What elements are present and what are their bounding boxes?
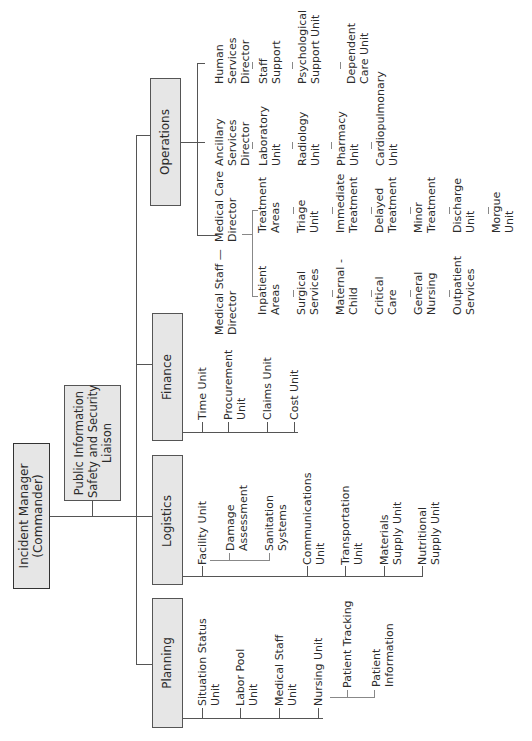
connector: [252, 62, 253, 69]
nursing-unit: Nursing Unit: [312, 638, 325, 706]
damage-assessment: Damage Assessment: [224, 485, 250, 551]
org-chart: Incident Manager (Commander) Public Info…: [0, 0, 532, 741]
cardiopulmonary-unit: Cardiopulmonary Unit: [374, 71, 400, 166]
connector: [345, 566, 346, 576]
general-nursing: General Nursing: [412, 272, 438, 315]
connector: [307, 566, 308, 576]
connector: [422, 566, 423, 576]
connector: [292, 62, 293, 69]
outpatient-services: Outpatient Services: [451, 256, 477, 315]
ancillary-services-director: Ancillary Services Director: [213, 119, 253, 167]
connector: [371, 290, 372, 297]
public-info-label: Public Information Safety and Security L…: [73, 388, 114, 498]
connector: [293, 207, 294, 214]
delayed-treatment: Delayed Treatment: [373, 177, 399, 233]
immediate-treatment: Immediate Treatment: [334, 174, 360, 233]
connector: [50, 516, 136, 517]
patient-information: Patient Information: [370, 623, 396, 687]
connector: [331, 142, 332, 149]
connector: [242, 234, 252, 235]
materials-supply-unit: Materials Supply Unit: [378, 502, 404, 565]
inpatient-areas: Inpatient Areas: [256, 266, 282, 315]
planning-label: Planning: [160, 602, 174, 724]
connector: [330, 697, 375, 698]
connector: [202, 708, 203, 718]
spine: [136, 135, 137, 665]
claims-unit: Claims Unit: [261, 357, 274, 420]
connector: [267, 422, 268, 432]
connector: [181, 142, 197, 143]
situation-status-unit: Situation Status Unit: [196, 618, 222, 706]
dependent-care-unit: Dependent Care Unit: [345, 23, 371, 84]
connector: [449, 290, 450, 297]
operations-label: Operations: [158, 81, 172, 203]
sanitation-systems: Sanitation Systems: [263, 495, 289, 551]
connector: [332, 207, 333, 214]
laboratory-unit: Laboratory Unit: [257, 106, 283, 166]
psychological-support-unit: Psychological Support Unit: [296, 10, 322, 84]
connector: [197, 63, 198, 235]
connector: [210, 560, 270, 561]
connector: [202, 422, 203, 432]
connector: [269, 553, 270, 560]
connector: [228, 422, 229, 432]
finance-label: Finance: [160, 316, 174, 438]
connector: [488, 207, 489, 214]
connector: [347, 690, 348, 698]
surgical-services: Surgical Services: [295, 269, 321, 315]
transportation-unit: Transportation Unit: [339, 486, 365, 565]
connector: [183, 576, 423, 577]
maternal-child: Maternal - Child: [334, 259, 360, 315]
connector: [197, 63, 205, 64]
connector: [136, 664, 152, 665]
cost-unit: Cost Unit: [288, 370, 301, 420]
connector: [202, 566, 203, 576]
communications-unit: Communications Unit: [301, 473, 327, 565]
facility-unit: Facility Unit: [196, 501, 209, 565]
connector: [371, 207, 372, 214]
connector: [136, 516, 152, 517]
connector: [292, 142, 293, 149]
connector: [318, 708, 319, 718]
time-unit: Time Unit: [196, 367, 209, 420]
connector: [92, 501, 93, 516]
medical-staff-unit: Medical Staff Unit: [273, 635, 299, 706]
patient-tracking: Patient Tracking: [341, 600, 354, 688]
connector: [197, 142, 205, 143]
connector: [136, 364, 152, 365]
connector: [183, 432, 298, 433]
connector: [449, 207, 450, 214]
connector: [371, 142, 372, 149]
medical-staff-director: Medical Staff — Director: [213, 249, 239, 335]
connector: [294, 422, 295, 432]
connector: [252, 142, 253, 149]
connector: [229, 553, 230, 560]
discharge-unit: Discharge Unit: [451, 178, 477, 233]
minor-treatment: Minor Treatment: [412, 177, 438, 233]
logistics-label: Logistics: [160, 460, 174, 582]
connector: [183, 718, 323, 719]
treatment-areas: Treatment Areas: [256, 177, 282, 233]
connector: [293, 290, 294, 297]
medical-care-director: Medical Care Director: [213, 171, 239, 242]
connector: [240, 708, 241, 718]
critical-care: Critical Care: [373, 277, 399, 315]
connector: [136, 135, 150, 136]
human-services-director: Human Services Director: [213, 38, 253, 84]
triage-unit: Triage Unit: [295, 200, 321, 233]
labor-pool-unit: Labor Pool Unit: [234, 649, 260, 706]
staff-support: Staff Support: [257, 41, 283, 84]
procurement-unit: Procurement Unit: [222, 350, 248, 420]
connector: [374, 690, 375, 698]
incident-manager-label: Incident Manager (Commander): [17, 446, 46, 586]
connector: [279, 708, 280, 718]
nutritional-supply-unit: Nutritional Supply Unit: [416, 502, 442, 565]
connector: [410, 290, 411, 297]
radiology-unit: Radiology Unit: [296, 112, 322, 166]
connector: [384, 566, 385, 576]
connector: [252, 210, 253, 296]
connector: [340, 62, 341, 69]
pharmacy-unit: Pharmacy Unit: [335, 111, 361, 166]
connector: [332, 290, 333, 297]
morgue-unit: Morgue Unit: [490, 192, 516, 233]
